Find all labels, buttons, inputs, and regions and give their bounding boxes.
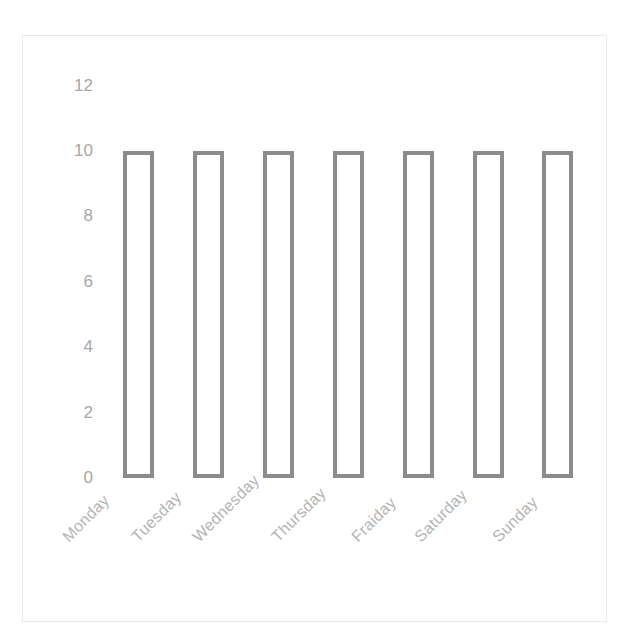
y-tick-label-4: 4 [49, 337, 93, 357]
x-tick-label-tuesday: Tuesday [128, 489, 185, 546]
y-tick-label-2: 2 [49, 403, 93, 423]
x-tick-label-fraiday: Fraiday [348, 494, 400, 546]
bar-wednesday[interactable] [263, 151, 294, 478]
bar-monday[interactable] [123, 151, 154, 478]
chart-frame: 12 10 8 6 4 2 0 Monday Tuesday Wednesday… [22, 35, 607, 622]
x-tick-label-monday: Monday [59, 491, 113, 545]
x-tick-label-wednesday: Wednesday [189, 472, 263, 546]
x-tick-label-thursday: Thursday [268, 484, 330, 546]
x-tick-label-saturday: Saturday [411, 486, 471, 546]
y-tick-label-0: 0 [49, 468, 93, 488]
bar-saturday[interactable] [473, 151, 504, 478]
plot-area: 12 10 8 6 4 2 0 Monday Tuesday Wednesday… [23, 36, 608, 623]
y-tick-label-8: 8 [49, 206, 93, 226]
y-tick-label-6: 6 [49, 272, 93, 292]
bar-thursday[interactable] [333, 151, 364, 478]
y-tick-label-10: 10 [49, 141, 93, 161]
x-tick-label-sunday: Sunday [489, 493, 541, 545]
bar-sunday[interactable] [542, 151, 573, 478]
bar-fraiday[interactable] [403, 151, 434, 478]
bar-tuesday[interactable] [193, 151, 224, 478]
y-tick-label-12: 12 [49, 76, 93, 96]
